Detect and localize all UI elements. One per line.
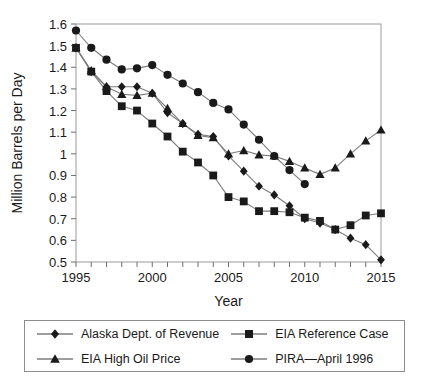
legend-swatch [229,327,269,341]
triangle-marker [361,136,370,144]
square-marker [270,207,278,215]
legend-item-label: EIA High Oil Price [81,352,180,366]
plot-area: 0.50.60.70.80.911.11.21.31.41.51.6199520… [0,0,432,308]
y-axis-tick-label: 0.8 [49,190,67,205]
square-marker [255,207,263,215]
series-4 [76,30,305,184]
y-axis-tick-label: 1.1 [49,125,67,140]
circle-marker [163,71,171,79]
square-marker [164,133,172,141]
circle-marker [118,65,126,73]
square-icon [245,330,253,338]
square-marker [377,209,385,217]
circle-marker [87,44,95,52]
y-axis-tick-label: 1.6 [49,17,67,32]
circle-marker [133,64,141,72]
y-axis-tick-label: 0.6 [49,233,67,248]
diamond-marker [270,190,278,199]
square-marker [133,107,141,115]
circle-marker [209,99,217,107]
legend-item[interactable]: EIA Reference Case [219,327,404,341]
y-axis-tick-label: 0.9 [49,168,67,183]
square-marker [301,214,309,222]
y-axis-title: Million Barrels per Day [9,73,25,214]
legend-item[interactable]: Alaska Dept. of Revenue [25,327,219,341]
circle-marker [301,180,309,188]
square-marker [331,226,339,234]
x-axis-tick-label: 1995 [62,270,91,285]
series-line [76,48,381,230]
triangle-marker [315,170,324,178]
triangle-marker [285,157,294,165]
triangle-marker [300,163,309,171]
square-marker [148,120,156,128]
diamond-icon [51,329,59,339]
series-2 [76,48,381,230]
y-axis-tick-label: 1.3 [49,82,67,97]
x-axis-tick-label: 2005 [214,270,243,285]
square-marker [225,193,233,201]
square-marker [118,102,126,110]
square-marker [362,212,370,220]
legend-item[interactable]: PIRA—April 1996 [219,352,404,366]
circle-marker [148,61,156,69]
series-4-markers [72,26,309,188]
legend-item-label: EIA Reference Case [275,327,388,341]
circle-marker [179,79,187,87]
square-marker [179,148,187,156]
circle-marker [102,56,110,64]
square-marker [316,217,324,225]
legend-swatch [35,327,75,341]
diamond-marker [347,234,355,243]
circle-marker [224,105,232,113]
circle-icon [245,354,253,362]
x-axis-tick-label: 2000 [138,270,167,285]
circle-marker [255,136,263,144]
square-marker [209,172,217,180]
square-marker [286,208,294,216]
series-line [76,30,305,184]
y-axis-tick-label: 1.2 [49,104,67,119]
legend-swatch [229,352,269,366]
y-axis-tick-label: 0.7 [49,212,67,227]
circle-marker [240,121,248,129]
circle-marker [270,152,278,160]
circle-marker [72,26,80,34]
triangle-marker [239,146,248,154]
legend-item-label: PIRA—April 1996 [275,352,373,366]
x-axis-tick-label: 2010 [290,270,319,285]
square-marker [347,221,355,229]
legend-item[interactable]: EIA High Oil Price [25,352,219,366]
square-marker [240,198,248,206]
diamond-marker [133,82,141,91]
legend-item-label: Alaska Dept. of Revenue [81,327,219,341]
circle-marker [285,166,293,174]
square-marker [194,159,202,167]
line-chart-svg: 0.50.60.70.80.911.11.21.31.41.51.6199520… [0,0,432,308]
circle-marker [194,88,202,96]
triangle-marker [376,125,385,133]
x-axis-tick-label: 2015 [367,270,396,285]
legend-swatch [35,352,75,366]
y-axis-tick-label: 1.4 [49,60,67,75]
triangle-marker [117,90,126,98]
y-axis-tick-label: 0.5 [49,255,67,270]
y-axis-tick-label: 1.5 [49,39,67,54]
chart-figure: 0.50.60.70.80.911.11.21.31.41.51.6199520… [0,0,432,385]
chart-legend: Alaska Dept. of RevenueEIA Reference Cas… [24,320,405,372]
y-axis-tick-label: 1 [60,147,67,162]
x-axis-title: Year [214,293,243,308]
